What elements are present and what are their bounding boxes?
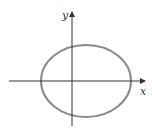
coordinate-diagram: x y [0,0,152,129]
y-axis-label: y [61,9,69,22]
x-axis-label: x [140,85,147,98]
